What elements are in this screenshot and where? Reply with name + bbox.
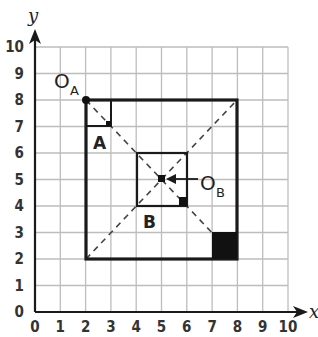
point-ob-dot bbox=[158, 175, 165, 182]
y-tick-label: 1 bbox=[15, 277, 24, 295]
y-tick-label: 0 bbox=[15, 303, 24, 321]
y-tick-labels: 012345678910 bbox=[5, 38, 24, 321]
point-oa-label: O bbox=[54, 69, 70, 93]
x-tick-label: 7 bbox=[207, 318, 216, 336]
square-b-corner-mark bbox=[179, 197, 187, 206]
y-tick-label: 2 bbox=[15, 250, 24, 268]
x-tick-label: 1 bbox=[56, 318, 65, 336]
x-axis-label: x bbox=[309, 301, 318, 322]
square-a-corner-mark bbox=[106, 121, 111, 126]
y-tick-label: 9 bbox=[15, 65, 24, 83]
square-a-label: A bbox=[93, 133, 107, 153]
x-tick-label: 3 bbox=[106, 318, 115, 336]
x-tick-label: 2 bbox=[81, 318, 90, 336]
y-tick-label: 8 bbox=[15, 91, 24, 109]
y-tick-label: 5 bbox=[15, 171, 24, 189]
point-oa-dot bbox=[82, 96, 90, 104]
x-tick-label: 4 bbox=[132, 318, 141, 336]
x-tick-label: 8 bbox=[233, 318, 242, 336]
x-tick-label: 9 bbox=[258, 318, 267, 336]
x-tick-labels: 012345678910 bbox=[30, 318, 297, 336]
dilation-diagram: x y 012345678910 012345678910 A B O A O … bbox=[0, 0, 318, 337]
y-tick-label: 4 bbox=[15, 197, 24, 215]
axes: x y bbox=[27, 5, 318, 322]
x-tick-label: 5 bbox=[157, 318, 166, 336]
y-tick-label: 10 bbox=[5, 38, 24, 56]
y-tick-label: 6 bbox=[15, 144, 24, 162]
point-ob-label: O bbox=[200, 171, 216, 195]
point-ob-arrow-icon bbox=[166, 174, 176, 184]
x-tick-label: 6 bbox=[182, 318, 191, 336]
y-tick-label: 7 bbox=[15, 118, 24, 136]
x-tick-label: 10 bbox=[279, 318, 298, 336]
x-tick-label: 0 bbox=[30, 318, 39, 336]
point-ob-subscript: B bbox=[216, 185, 225, 200]
y-tick-label: 3 bbox=[15, 224, 24, 242]
point-oa-subscript: A bbox=[70, 83, 79, 98]
square-b-label: B bbox=[143, 212, 156, 232]
filled-corner-square bbox=[212, 232, 237, 259]
y-axis-label: y bbox=[27, 5, 39, 26]
